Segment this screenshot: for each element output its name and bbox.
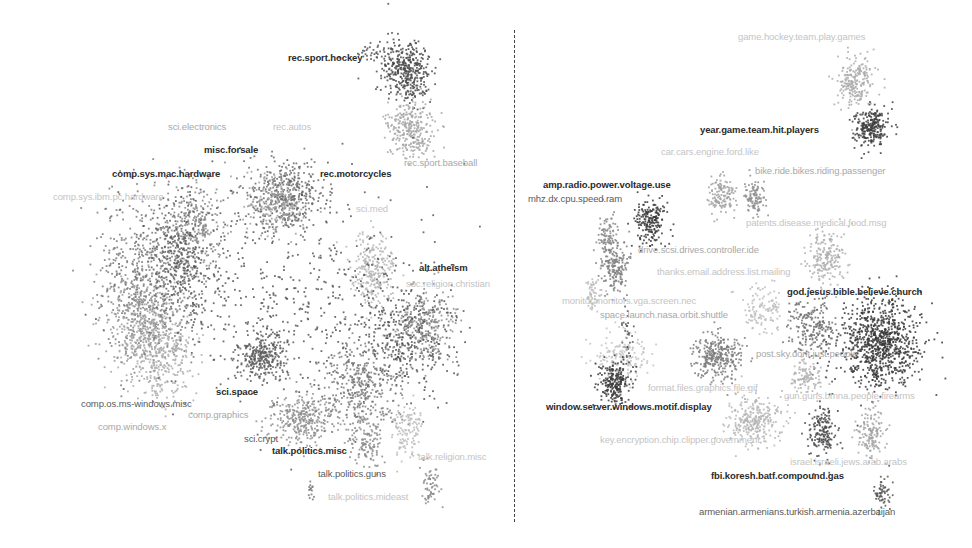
- cluster-label: rec.sport.hockey: [288, 53, 362, 63]
- cluster-label: amp.radio.power.voltage.use: [543, 180, 671, 190]
- cluster-label: talk.politics.misc: [272, 446, 347, 456]
- cluster-label: talk.politics.guns: [318, 469, 386, 479]
- cluster-label: bike.ride.bikes.riding.passenger: [755, 166, 885, 176]
- cluster-label: patents.disease.medical.food.msg: [746, 218, 886, 228]
- cluster-label: misc.forsale: [204, 145, 258, 155]
- cluster-label: sci.crypt: [244, 434, 278, 444]
- cluster-label: soc.religion.christian: [406, 279, 490, 289]
- cluster-label: key.encryption.chip.clipper.government: [600, 435, 760, 445]
- cluster-label: year.game.team.hit.players: [700, 125, 819, 135]
- cluster-label: rec.autos: [273, 122, 311, 132]
- cluster-label: talk.religion.misc: [418, 452, 486, 462]
- cluster-label: sci.electronics: [168, 122, 226, 132]
- cluster-label: thanks.email.address.list.mailing: [657, 267, 790, 277]
- cluster-label: talk.politics.mideast: [328, 492, 408, 502]
- cluster-label: comp.sys.mac.hardware: [112, 169, 220, 179]
- cluster-label: format.files.graphics.file.gif: [648, 383, 757, 393]
- cluster-label: space.launch.nasa.orbit.shuttle: [600, 310, 728, 320]
- cluster-label: drive.scsi.drives.controller.ide: [638, 245, 759, 255]
- cluster-label: car.cars.engine.ford.like: [661, 147, 759, 157]
- cluster-label: comp.windows.x: [98, 422, 166, 432]
- cluster-label: alt.atheism: [419, 263, 468, 273]
- cluster-label: window.server.windows.motif.display: [546, 402, 712, 412]
- cluster-label: fbi.koresh.batf.compound.gas: [711, 471, 844, 481]
- cluster-label: god.jesus.bible.believe.church: [787, 287, 922, 297]
- cluster-label: game.hockey.team.play.games: [738, 32, 865, 42]
- cluster-label: comp.os.ms-windows.misc: [81, 399, 192, 409]
- cluster-label: rec.sport.baseball: [404, 158, 477, 168]
- right-scatter-points: [581, 47, 947, 516]
- cluster-label: mhz.dx.cpu.speed.ram: [528, 194, 622, 204]
- cluster-label: post.sky.dont.just.people: [756, 349, 857, 359]
- cluster-label: monitor.monitors.vga.screen.nec: [562, 296, 696, 306]
- cluster-label: armenian.armenians.turkish.armenia.azerb…: [699, 507, 895, 517]
- cluster-label: comp.graphics: [188, 410, 248, 420]
- cluster-label: rec.motorcycles: [320, 169, 391, 179]
- cluster-label: sci.med: [356, 204, 388, 214]
- cluster-label: sci.space: [216, 387, 258, 397]
- panel-divider: [514, 30, 515, 522]
- cluster-label: comp.sys.ibm.pc.hardware: [53, 192, 164, 202]
- cluster-label: gun.guns.bmna.people.firearms: [784, 391, 915, 401]
- cluster-label: israel.israeli.jews.arab.arabs: [790, 457, 907, 467]
